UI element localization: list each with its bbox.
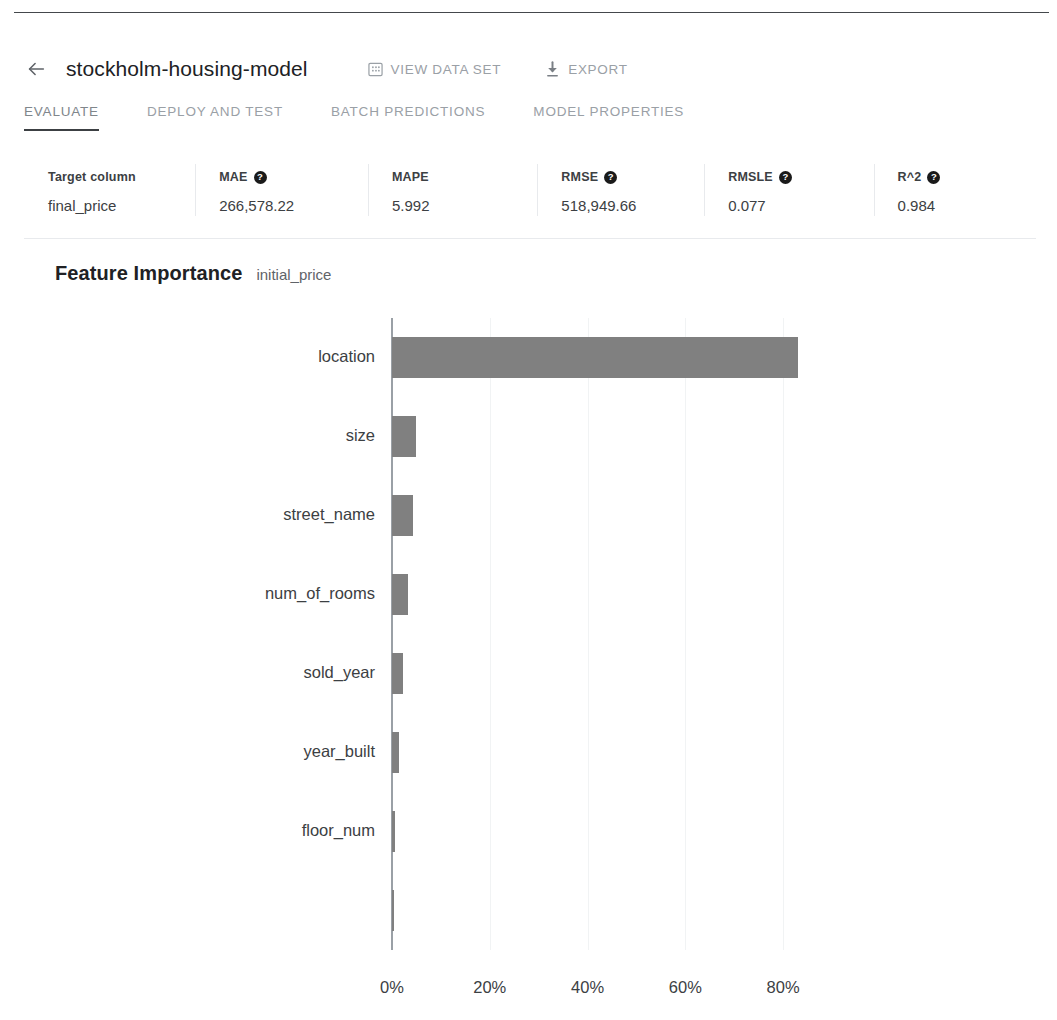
- metric-value: 518,949.66: [561, 197, 704, 214]
- chart-bar-row: [392, 792, 832, 871]
- chart-plot-area: [392, 318, 832, 950]
- chart-bar[interactable]: [392, 416, 416, 457]
- chart-bar[interactable]: [392, 890, 394, 931]
- feature-importance-chart: locationsizestreet_namenum_of_roomssold_…: [0, 318, 1057, 1020]
- chart-bar-row: [392, 713, 832, 792]
- feature-importance-heading: Feature Importance initial_price: [55, 262, 331, 285]
- chart-x-tick-label: 0%: [380, 978, 404, 997]
- metric-header-label: RMSLE: [728, 170, 773, 184]
- help-icon[interactable]: ?: [604, 171, 617, 184]
- page-top-divider: [14, 12, 1049, 13]
- metric-header-label: R^2: [898, 170, 922, 184]
- tab-deploy-and-test[interactable]: DEPLOY AND TEST: [147, 104, 283, 131]
- help-icon[interactable]: ?: [254, 171, 267, 184]
- chart-bar[interactable]: [392, 337, 798, 378]
- metric-value: 266,578.22: [219, 197, 368, 214]
- export-button[interactable]: EXPORT: [545, 61, 627, 78]
- chart-bar[interactable]: [392, 811, 395, 852]
- metric-r2: R^2 ? 0.984: [874, 160, 1036, 238]
- chart-category-labels: locationsizestreet_namenum_of_roomssold_…: [0, 318, 375, 950]
- metric-value: 0.984: [898, 197, 1036, 214]
- back-arrow-icon[interactable]: [16, 49, 56, 89]
- chart-bar-row: [392, 397, 832, 476]
- metric-header-label: RMSE: [561, 170, 598, 184]
- metric-header-label: Target column: [48, 170, 136, 184]
- metric-header: MAE ?: [219, 170, 368, 184]
- chart-x-tick-label: 20%: [473, 978, 506, 997]
- download-icon: [545, 61, 560, 78]
- tab-model-properties[interactable]: MODEL PROPERTIES: [533, 104, 684, 131]
- chart-category-label: sold_year: [303, 663, 375, 682]
- page-title: stockholm-housing-model: [66, 57, 308, 81]
- metric-header: RMSLE ?: [728, 170, 873, 184]
- metric-header-label: MAE: [219, 170, 247, 184]
- tab-evaluate[interactable]: EVALUATE: [24, 104, 99, 131]
- metric-header-label: MAPE: [392, 170, 429, 184]
- view-data-set-label: VIEW DATA SET: [391, 62, 502, 77]
- chart-x-tick-label: 40%: [571, 978, 604, 997]
- metric-header: MAPE: [392, 170, 537, 184]
- metric-value: final_price: [48, 197, 195, 214]
- chart-category-label: year_built: [303, 742, 375, 761]
- tab-model-properties-label: MODEL PROPERTIES: [533, 104, 684, 119]
- chart-category-label: num_of_rooms: [265, 584, 375, 603]
- tab-evaluate-label: EVALUATE: [24, 104, 99, 119]
- chart-bar-row: [392, 318, 832, 397]
- export-label: EXPORT: [568, 62, 627, 77]
- metric-value: 0.077: [728, 197, 873, 214]
- feature-importance-subtitle: initial_price: [256, 266, 331, 283]
- chart-bar[interactable]: [392, 732, 399, 773]
- chart-x-tick-label: 60%: [669, 978, 702, 997]
- metric-rmse: RMSE ? 518,949.66: [537, 160, 704, 238]
- chart-category-label: location: [318, 347, 375, 366]
- chart-x-tick-label: 80%: [767, 978, 800, 997]
- metric-mae: MAE ? 266,578.22: [195, 160, 368, 238]
- chart-bar-row: [392, 634, 832, 713]
- chart-bar-row: [392, 555, 832, 634]
- tab-deploy-and-test-label: DEPLOY AND TEST: [147, 104, 283, 119]
- tab-batch-predictions[interactable]: BATCH PREDICTIONS: [331, 104, 485, 131]
- metric-header: RMSE ?: [561, 170, 704, 184]
- tab-bar: EVALUATE DEPLOY AND TEST BATCH PREDICTIO…: [0, 104, 1057, 144]
- metric-target-column: Target column final_price: [24, 160, 195, 238]
- metric-header: R^2 ?: [898, 170, 1036, 184]
- chart-bar-row: [392, 476, 832, 555]
- chart-x-axis: 0%20%40%60%80%: [0, 950, 1057, 1010]
- chart-category-label: size: [346, 426, 375, 445]
- metric-mape: MAPE 5.992: [368, 160, 537, 238]
- chart-bar[interactable]: [392, 574, 408, 615]
- help-icon[interactable]: ?: [927, 171, 940, 184]
- metric-value: 5.992: [392, 197, 537, 214]
- tab-batch-predictions-label: BATCH PREDICTIONS: [331, 104, 485, 119]
- chart-bar[interactable]: [392, 495, 413, 536]
- metric-rmsle: RMSLE ? 0.077: [704, 160, 873, 238]
- chart-bar-row: [392, 871, 832, 950]
- help-icon[interactable]: ?: [779, 171, 792, 184]
- data-set-icon: [368, 62, 383, 77]
- metrics-table: Target column final_price MAE ? 266,578.…: [24, 160, 1036, 239]
- feature-importance-title: Feature Importance: [55, 262, 242, 285]
- view-data-set-button[interactable]: VIEW DATA SET: [368, 62, 502, 77]
- chart-category-label: street_name: [283, 505, 375, 524]
- chart-bar[interactable]: [392, 653, 403, 694]
- metric-header: Target column: [48, 170, 195, 184]
- page-header: stockholm-housing-model VIEW DATA SET EX…: [0, 46, 1057, 92]
- chart-category-label: floor_num: [302, 821, 375, 840]
